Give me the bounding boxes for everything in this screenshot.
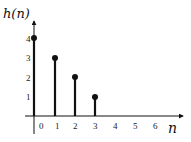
stem-markers bbox=[31, 35, 98, 100]
svg-text:2: 2 bbox=[26, 73, 31, 83]
svg-text:3: 3 bbox=[93, 121, 98, 131]
x-tick-labels: 0 1 2 3 4 5 6 bbox=[39, 121, 158, 131]
svg-text:0: 0 bbox=[39, 121, 44, 131]
svg-text:2: 2 bbox=[73, 121, 78, 131]
stem-plot: h(n) n 1 2 3 4 0 1 2 3 4 5 6 bbox=[0, 0, 191, 142]
svg-text:4: 4 bbox=[113, 121, 118, 131]
y-axis-label: h(n) bbox=[3, 6, 30, 21]
svg-text:1: 1 bbox=[26, 92, 31, 102]
marker-n3 bbox=[92, 94, 98, 100]
svg-text:5: 5 bbox=[133, 121, 138, 131]
marker-n2 bbox=[72, 74, 78, 80]
x-axis-label: n bbox=[168, 120, 177, 136]
y-tick-labels: 1 2 3 4 bbox=[26, 34, 31, 102]
marker-n1 bbox=[52, 55, 58, 61]
stems bbox=[34, 38, 95, 116]
marker-n0 bbox=[31, 35, 37, 41]
svg-text:1: 1 bbox=[55, 121, 60, 131]
svg-text:3: 3 bbox=[26, 53, 31, 63]
svg-text:4: 4 bbox=[26, 34, 31, 44]
svg-text:6: 6 bbox=[153, 121, 158, 131]
